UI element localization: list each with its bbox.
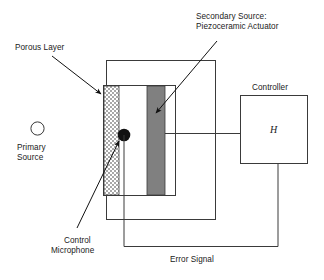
secondary-source-leader [156, 41, 217, 113]
porous-layer-label: Porous Layer [15, 43, 64, 53]
porous-layer-block [104, 86, 119, 195]
secondary-source-label-line2: Piezoceramic Actuator [196, 22, 279, 32]
piezoceramic-actuator-block [147, 86, 165, 195]
error-signal-label: Error Signal [170, 255, 214, 265]
figure-canvas: Porous Layer Secondary Source: Piezocera… [0, 0, 324, 280]
controller-label: Controller [252, 83, 288, 93]
diagram-graphics [0, 0, 324, 280]
controller-transfer-function-symbol: H [270, 124, 277, 135]
control-microphone-label-line1: Control [64, 236, 91, 246]
primary-source-label-line1: Primary [17, 143, 46, 153]
primary-source-label-line2: Source [17, 153, 43, 163]
control-microphone-label-line2: Microphone [51, 246, 94, 256]
primary-source-circle [31, 122, 44, 135]
porous-layer-leader [52, 56, 101, 94]
secondary-source-label-line1: Secondary Source: [196, 12, 266, 22]
